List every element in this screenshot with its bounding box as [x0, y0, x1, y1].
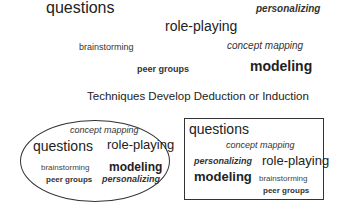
term-personalizing: personalizing	[256, 4, 320, 14]
term-questions: questions	[46, 0, 115, 16]
ellipse-term-peer-groups: peer groups	[46, 176, 92, 184]
term-brainstorming: brainstorming	[79, 43, 134, 52]
box-term-modeling: modeling	[194, 170, 252, 183]
term-peer-groups: peer groups	[137, 65, 189, 74]
ellipse-term-personalizing: personalizing	[102, 175, 160, 184]
term-role-playing: role-playing	[165, 19, 237, 33]
box-term-concept-mapping: concept mapping	[226, 141, 295, 150]
ellipse-term-brainstorming: brainstorming	[41, 164, 89, 172]
ellipse-term-questions: questions	[33, 139, 93, 153]
box-term-role-playing: role-playing	[262, 154, 329, 167]
diagram-caption: Techniques Develop Deduction or Inductio…	[87, 91, 309, 103]
term-modeling: modeling	[250, 59, 312, 73]
ellipse-term-modeling: modeling	[109, 161, 162, 173]
ellipse-term-role-playing: role-playing	[107, 138, 174, 151]
box-term-brainstorming: brainstorming	[259, 175, 307, 183]
ellipse-term-concept-mapping: concept mapping	[70, 126, 139, 135]
box-term-personalizing: personalizing	[194, 157, 252, 166]
box-term-peer-groups: peer groups	[263, 187, 309, 195]
term-concept-mapping: concept mapping	[227, 41, 303, 51]
box-term-questions: questions	[189, 122, 249, 136]
